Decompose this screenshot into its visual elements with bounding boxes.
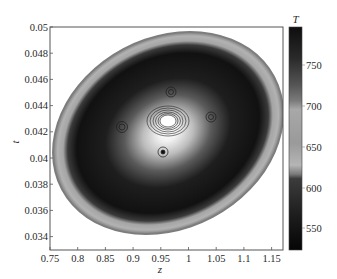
plot-area [16,0,320,275]
colorbar-label: T [292,13,299,25]
x-tick-label: 0.9 [127,253,140,264]
y-tick-label: 0.04 [30,153,49,164]
x-tick-label: 1.05 [207,253,225,264]
figure: 0.75 0.8 0.85 0.9 0.95 1 1.05 1.1 1.15 z… [0,0,337,279]
x-tick-label: 1.1 [237,253,250,264]
colorbar-tick-label: 750 [306,60,322,71]
x-tick-label: 1.15 [262,253,280,264]
x-tick-label: 0.8 [71,253,84,264]
y-axis: 0.05 0.048 0.046 0.044 0.042 0.04 0.038 … [9,22,53,243]
x-tick-label: 1 [186,253,191,264]
x-axis: 0.75 0.8 0.85 0.9 0.95 1 1.05 1.1 1.15 z [41,247,281,275]
y-tick-label: 0.034 [24,231,48,242]
y-tick-label: 0.046 [24,74,48,85]
colorbar-tick-label: 650 [306,142,322,153]
x-tick-label: 0.85 [96,253,114,264]
x-axis-label: z [157,263,163,275]
y-tick-label: 0.042 [24,126,48,137]
y-tick-label: 0.05 [30,22,48,33]
colorbar: T 550 600 650 700 750 [289,13,322,250]
x-tick-label: 0.75 [41,253,59,264]
colorbar-tick-label: 550 [306,223,322,234]
y-tick-label: 0.036 [24,205,48,216]
y-tick-label: 0.038 [24,179,48,190]
y-tick-label: 0.044 [24,100,48,111]
y-axis-label: t [9,140,21,144]
colorbar-tick-label: 700 [306,101,322,112]
colorbar-tick-label: 600 [306,183,322,194]
y-tick-label: 0.048 [24,48,48,59]
